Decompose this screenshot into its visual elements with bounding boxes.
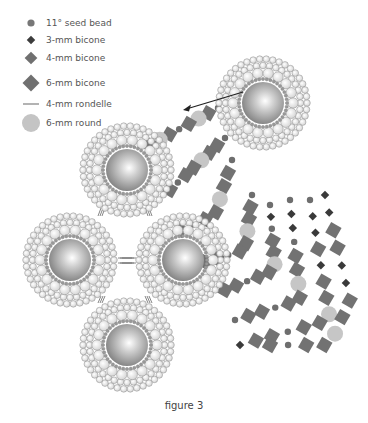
- medallion-top: [80, 123, 175, 217]
- medallion-bottom: [80, 298, 175, 392]
- figure-caption: figure 3: [0, 400, 368, 411]
- medallion-left: [23, 213, 118, 307]
- beading-diagram: [0, 0, 368, 423]
- medallion-upper-right: [216, 56, 311, 150]
